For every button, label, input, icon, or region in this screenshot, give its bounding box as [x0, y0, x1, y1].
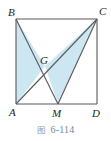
vertex-label-g: G: [40, 54, 48, 66]
vertex-label-b: B: [8, 6, 15, 18]
vertex-label-m: M: [51, 107, 62, 119]
geometry-diagram: B C A D M G: [0, 0, 111, 121]
shaded-triangle-gmc: [45, 19, 97, 104]
figure-caption: 图 6-114: [0, 119, 111, 141]
vertex-label-c: C: [99, 5, 107, 17]
figure-container: B C A D M G 图 6-114: [0, 0, 111, 141]
caption-label-text: 图: [37, 126, 46, 135]
vertex-label-d: D: [91, 107, 100, 119]
caption-number-text: 6-114: [51, 125, 75, 135]
vertex-label-a: A: [8, 106, 16, 118]
